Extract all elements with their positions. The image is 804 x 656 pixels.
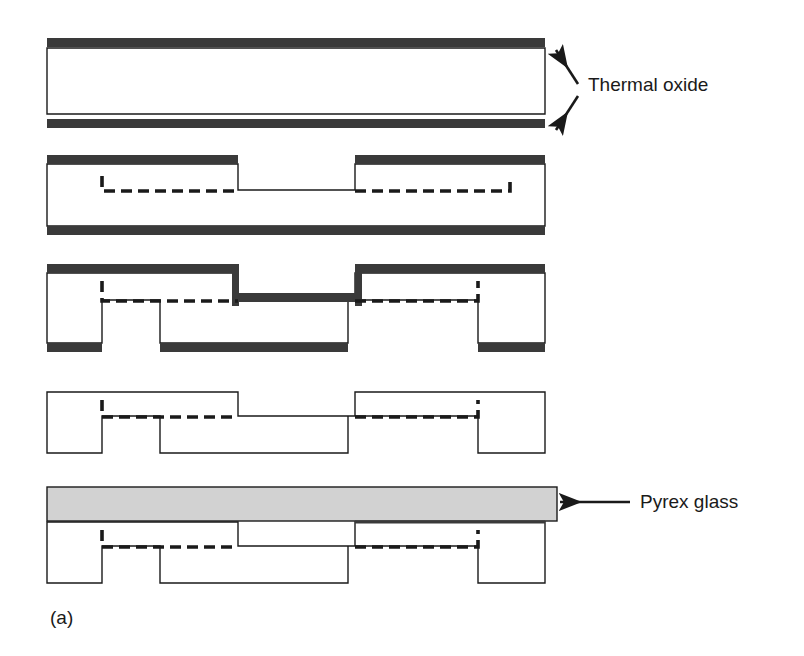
process-flow-figure: Thermal oxidePyrex glass (a) xyxy=(0,0,804,656)
panel-oxide-strip xyxy=(47,392,545,453)
figure-caption: (a) xyxy=(50,607,73,628)
panels-layer xyxy=(47,38,557,583)
annotations-layer: Thermal oxidePyrex glass xyxy=(556,50,738,512)
top-thermal-oxide-layer xyxy=(47,38,545,47)
callout-arrow-icon xyxy=(556,50,578,84)
annotation-thermal-oxide: Thermal oxide xyxy=(556,50,708,130)
bottom-thermal-oxide-layer xyxy=(47,343,102,352)
panel-double-sided-etch xyxy=(47,264,545,352)
annotation-pyrex-glass: Pyrex glass xyxy=(560,491,738,512)
callout-arrow-icon xyxy=(556,96,578,130)
panel-thermal-oxidation xyxy=(47,38,545,128)
top-thermal-oxide-layer xyxy=(355,155,545,164)
silicon-substrate-outline xyxy=(47,392,545,453)
pyrex-glass-slab xyxy=(47,487,557,521)
top-thermal-oxide-layer xyxy=(47,155,238,164)
bottom-thermal-oxide-layer xyxy=(160,343,348,352)
top-thermal-oxide-layer xyxy=(355,264,545,273)
silicon-substrate-outline xyxy=(47,273,545,343)
panel-anodic-bonding xyxy=(47,487,557,583)
oxide-recess-floor xyxy=(238,293,355,302)
silicon-substrate-outline xyxy=(47,522,545,583)
process-flow-diagram: Thermal oxidePyrex glass (a) xyxy=(0,0,804,656)
silicon-substrate-outline xyxy=(47,48,545,114)
annotation-label-pyrex-glass: Pyrex glass xyxy=(640,491,738,512)
silicon-substrate-outline xyxy=(47,164,545,226)
bottom-thermal-oxide-layer xyxy=(47,119,545,128)
bottom-thermal-oxide-layer xyxy=(478,343,545,352)
annotation-label-thermal-oxide: Thermal oxide xyxy=(588,74,708,95)
top-thermal-oxide-layer xyxy=(47,264,238,273)
bottom-thermal-oxide-layer xyxy=(47,226,545,235)
panel-oxide-patterning xyxy=(47,155,545,235)
